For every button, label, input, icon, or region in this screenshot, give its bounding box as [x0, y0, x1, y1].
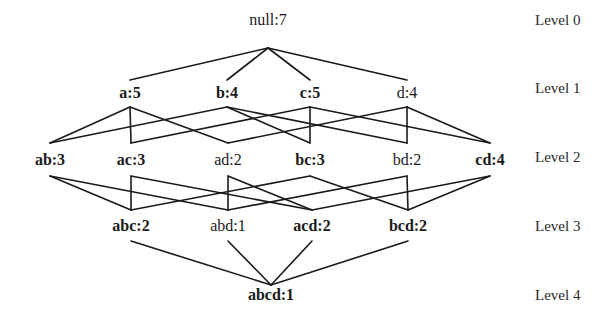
edge-cd-acd — [312, 176, 490, 210]
node-a: a:5 — [119, 85, 140, 101]
node-acd: acd:2 — [293, 218, 330, 234]
edge-d-cd — [407, 107, 490, 143]
edge-ab-abc — [50, 176, 131, 210]
level-label-4: Level 4 — [535, 288, 580, 303]
edge-b-bc — [227, 107, 310, 143]
edge-cd-bcd — [408, 176, 490, 210]
node-bcd: bcd:2 — [389, 218, 427, 234]
edge-b-ab — [50, 107, 227, 143]
edge-a-ac — [130, 107, 131, 143]
level-label-3: Level 3 — [535, 219, 580, 234]
edge-a-ab — [50, 107, 130, 143]
node-bd: bd:2 — [393, 152, 421, 168]
node-ac: ac:3 — [117, 152, 145, 168]
lattice-diagram: null:7 a:5 b:4 c:5 d:4 ab:3 ac:3 ad:2 bc… — [0, 0, 610, 322]
node-abd: abd:1 — [210, 218, 246, 234]
node-bc: bc:3 — [295, 152, 324, 168]
edge-a-ad — [130, 107, 228, 143]
edge-ad-acd — [228, 176, 312, 210]
edge-ab-abd — [50, 176, 228, 210]
node-ad: ad:2 — [214, 152, 242, 168]
level-label-1: Level 1 — [535, 81, 580, 96]
node-abc: abc:2 — [112, 218, 149, 234]
node-abcd: abcd:1 — [248, 287, 294, 303]
edge-bd-abd — [228, 176, 407, 210]
node-cd: cd:4 — [475, 152, 504, 168]
node-b: b:4 — [216, 85, 238, 101]
edge-bc-bcd — [310, 176, 408, 210]
node-ab: ab:3 — [35, 152, 65, 168]
node-d: d:4 — [397, 85, 417, 101]
edge-c-cd — [310, 107, 490, 143]
level-label-2: Level 2 — [535, 150, 580, 165]
node-null: null:7 — [249, 12, 286, 28]
edge-c-ac — [131, 107, 310, 143]
node-c: c:5 — [300, 85, 320, 101]
level-label-0: Level 0 — [535, 13, 580, 28]
edge-bd-bcd — [407, 176, 408, 210]
